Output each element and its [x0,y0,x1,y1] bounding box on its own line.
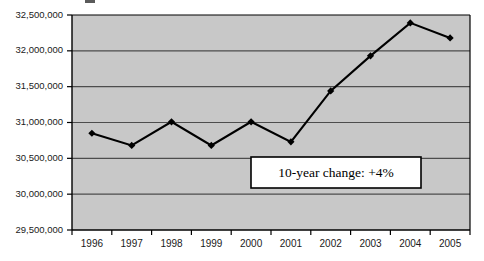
x-axis-tick-label: 2003 [359,238,382,249]
y-axis-ticks-group: 29,500,00030,000,00030,500,00031,000,000… [15,9,72,235]
x-axis-tick-label: 1999 [200,238,223,249]
annotation-label: 10-year change: +4% [278,165,394,180]
x-axis-tick-label: 2001 [280,238,303,249]
x-axis-tick-label: 1996 [81,238,104,249]
x-axis-tick-label: 2005 [439,238,462,249]
y-axis-tick-label: 31,500,000 [15,80,63,91]
y-axis-tick-label: 30,500,000 [15,152,63,163]
chart-plot-svg: 29,500,00030,000,00030,500,00031,000,000… [0,0,484,261]
line-chart-figure: 29,500,00030,000,00030,500,00031,000,000… [0,0,484,261]
y-axis-tick-label: 30,000,000 [15,188,63,199]
x-axis-tick-label: 1998 [160,238,183,249]
x-axis-tick-label: 2004 [399,238,422,249]
y-axis-tick-label: 31,000,000 [15,116,63,127]
y-axis-tick-label: 32,000,000 [15,44,63,55]
annotation-callout: 10-year change: +4% [251,157,421,188]
y-axis-tick-label: 29,500,000 [15,224,63,235]
x-axis-ticks-group: 1996199719981999200020012002200320042005 [72,230,470,249]
x-axis-tick-label: 1997 [121,238,144,249]
x-axis-tick-label: 2000 [240,238,263,249]
x-axis-tick-label: 2002 [320,238,343,249]
y-axis-tick-label: 32,500,000 [15,9,63,20]
